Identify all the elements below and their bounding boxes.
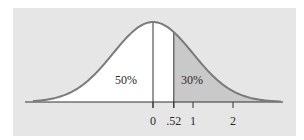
region-mean-to-52	[153, 22, 174, 102]
x-tick-label: 0	[150, 114, 156, 128]
region-upper-tail-shaded	[174, 32, 281, 102]
x-ticks: 0.5212	[150, 102, 236, 128]
annotation-30-percent: 30%	[181, 73, 203, 87]
region-left-of-mean	[33, 22, 153, 102]
x-tick-label: 2	[230, 114, 236, 128]
normal-curve-chart: 0.5212 50% 30%	[0, 0, 304, 140]
x-tick-label: 1	[190, 114, 196, 128]
annotation-50-percent: 50%	[115, 73, 137, 87]
x-tick-label: .52	[166, 114, 181, 128]
